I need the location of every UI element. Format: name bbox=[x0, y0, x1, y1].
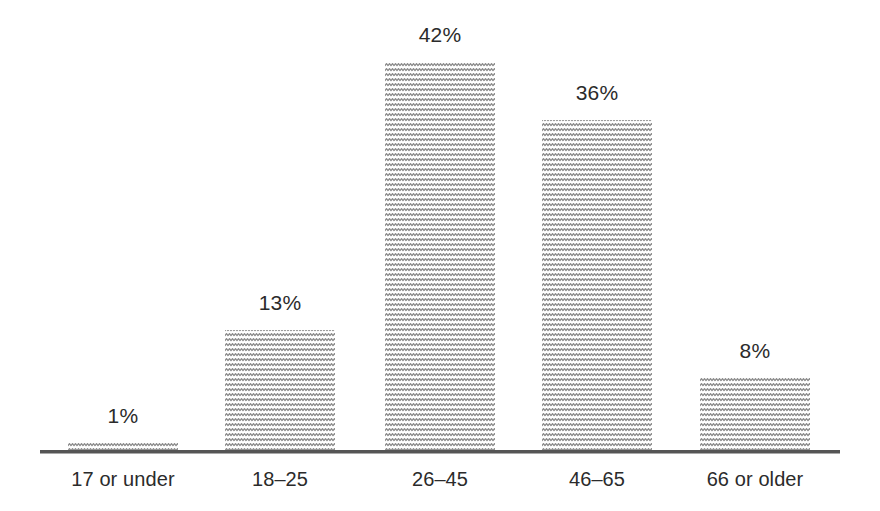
bar bbox=[700, 378, 810, 452]
bar-value-label: 36% bbox=[542, 81, 652, 105]
bar bbox=[385, 62, 495, 452]
bar-group: 13% bbox=[225, 32, 335, 452]
bar-group: 42% bbox=[385, 22, 495, 452]
axis-baseline-shadow bbox=[40, 453, 840, 454]
category-label-3: 46–65 bbox=[522, 468, 672, 491]
bar-group: 1% bbox=[68, 32, 178, 452]
category-label-2: 26–45 bbox=[365, 468, 515, 491]
category-label-1: 18–25 bbox=[205, 468, 355, 491]
bar bbox=[225, 330, 335, 452]
bar-value-label: 13% bbox=[225, 291, 335, 315]
bar-group: 36% bbox=[542, 22, 652, 452]
bar-value-label: 1% bbox=[68, 404, 178, 428]
bar bbox=[542, 120, 652, 452]
category-label-4: 66 or older bbox=[680, 468, 830, 491]
bar-value-label: 42% bbox=[385, 23, 495, 47]
bar-group: 8% bbox=[700, 22, 810, 452]
bar-value-label: 8% bbox=[700, 339, 810, 363]
bar-chart: 1% 13% 42% 36% 8% 17 or under 18–25 26–4… bbox=[0, 0, 880, 511]
category-label-0: 17 or under bbox=[48, 468, 198, 491]
plot-area: 1% 13% 42% 36% 8% 17 or under 18–25 26–4… bbox=[0, 0, 880, 511]
